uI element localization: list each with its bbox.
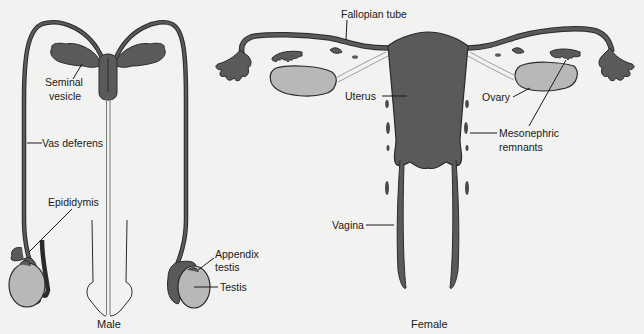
label-ovary: Ovary — [482, 91, 510, 103]
testis-left — [9, 263, 45, 307]
leader-epididymis — [29, 209, 72, 252]
label-vagina: Vagina — [332, 219, 364, 231]
label-appendix-testis-2: testis — [215, 261, 240, 273]
reproductive-anatomy-figure: Seminal vesicle Vas deferens Epididymis … — [0, 0, 644, 334]
label-epididymis: Epididymis — [48, 196, 99, 208]
leader-fallopian-tube — [346, 20, 347, 40]
label-testis: Testis — [220, 281, 247, 293]
leader-ovary — [513, 88, 530, 97]
uterus — [388, 32, 468, 169]
label-fallopian-tube: Fallopian tube — [341, 8, 407, 20]
label-appendix-testis-1: Appendix — [215, 248, 259, 260]
fimbriae-left — [216, 50, 251, 81]
vagina-wall-right — [450, 160, 459, 288]
ligament-left — [336, 52, 388, 82]
label-mesonephric-1: Mesonephric — [499, 127, 559, 139]
label-seminal-vesicle-2: vesicle — [49, 90, 81, 102]
caption-male: Male — [97, 318, 121, 330]
label-uterus: Uterus — [345, 90, 376, 102]
epoophoron-left — [272, 51, 302, 62]
ligament-right — [468, 52, 516, 80]
male-diagram — [9, 22, 218, 316]
epoophoron-right — [550, 49, 580, 60]
caption-female: Female — [411, 318, 448, 330]
female-diagram — [216, 20, 634, 288]
ovary-right — [515, 62, 577, 91]
label-mesonephric-2: remnants — [499, 141, 543, 153]
leader-appendix-testis — [198, 258, 214, 270]
label-vas-deferens: Vas deferens — [42, 137, 103, 149]
anatomy-diagram — [0, 0, 644, 334]
vagina-wall-left — [397, 160, 406, 288]
label-seminal-vesicle-1: Seminal — [45, 76, 83, 88]
ovary-left — [270, 66, 336, 96]
fimbriae-right — [599, 48, 634, 81]
